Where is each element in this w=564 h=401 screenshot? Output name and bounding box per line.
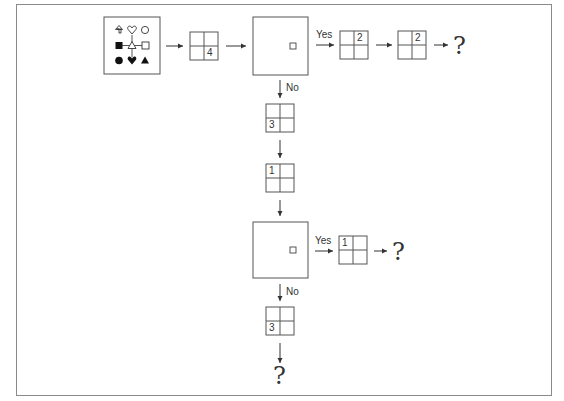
decision-box-1 [253,17,308,75]
flow-arrows [166,45,448,363]
symbol-legend-box [104,17,160,74]
yes-label-2: Yes [315,236,331,246]
diagram-graphics [0,0,564,401]
circle-filled-icon [115,57,123,65]
square-filled-icon [116,42,123,49]
question-mark-1: ? [453,34,466,58]
grid-g-value: 3 [269,323,275,333]
grid-a [190,32,218,60]
grid-d-value: 3 [269,120,275,130]
question-mark-3: ? [273,364,286,388]
small-square-marker [290,43,296,49]
grid-c [398,31,426,59]
grid-c-value: 2 [415,33,421,43]
grid-e-value: 1 [269,166,275,176]
no-label-1: No [286,83,299,93]
square-outline-icon [142,42,149,49]
no-label-2: No [286,287,299,297]
grid-b [340,31,368,59]
grid-a-value: 4 [207,48,213,58]
question-mark-2: ? [392,240,405,264]
flowchart-diagram: 4 2 2 3 1 1 3 Yes No Yes No ? ? ? [0,0,564,401]
decision-box-2 [253,222,308,278]
small-square-marker [290,247,296,253]
grid-f-value: 1 [342,238,348,248]
grid-b-value: 2 [357,33,363,43]
yes-label-1: Yes [316,30,332,40]
circle-outline-icon [141,26,148,33]
